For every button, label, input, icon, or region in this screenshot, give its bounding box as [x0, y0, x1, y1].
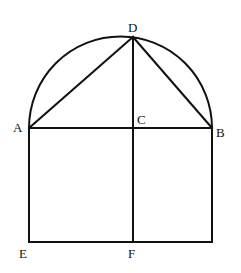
geometry-diagram: D A C B E F: [0, 0, 241, 273]
label-c: C: [137, 112, 146, 127]
segment-ad: [29, 37, 133, 128]
label-b: B: [216, 125, 225, 140]
label-f: F: [128, 246, 135, 261]
label-a: A: [13, 120, 23, 135]
semicircle-arc: [29, 36, 212, 128]
label-e: E: [19, 246, 27, 261]
label-d: D: [128, 20, 137, 35]
